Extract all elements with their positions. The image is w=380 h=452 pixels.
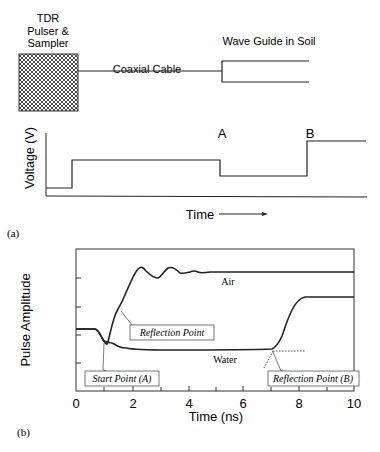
plot-frame: [76, 249, 354, 391]
waveguide-label: Wave Guide in Soil: [222, 35, 315, 47]
tangent-line-slope: [264, 351, 273, 368]
panel-b-chart: 0 2 4 6 8 10 Time (ns) Pulse Amplitude A…: [18, 249, 361, 424]
air-curve: [76, 267, 354, 344]
water-curve: [76, 297, 354, 350]
device-label-2: Pulser &: [27, 25, 69, 37]
pulser-sampler-box: [19, 54, 78, 111]
svg-text:10: 10: [347, 396, 361, 411]
device-label-1: TDR: [37, 12, 60, 24]
marker-b: B: [306, 126, 315, 141]
reflection-point-text: Reflection Point: [139, 327, 205, 338]
air-label: Air: [221, 276, 235, 287]
panel-a-label: (a): [7, 227, 20, 240]
svg-text:8: 8: [295, 396, 302, 411]
x-ticks: [104, 386, 327, 391]
svg-text:0: 0: [72, 396, 79, 411]
start-point-text: Start Point (A): [93, 373, 153, 385]
voltage-axis-label: Voltage (V): [23, 127, 37, 189]
reflection-b-leader: [273, 352, 294, 372]
device-label-3: Sampler: [28, 37, 69, 49]
reflection-point-b-text: Reflection Point (B): [272, 373, 354, 385]
water-label: Water: [213, 354, 237, 365]
y-ticks: [76, 278, 81, 363]
x-axis-label: Time (ns): [189, 409, 243, 424]
svg-text:2: 2: [129, 396, 136, 411]
start-point-leader: [103, 343, 109, 372]
panel-a-plot: A B Voltage (V) Time: [23, 126, 367, 222]
voltage-trace: [46, 141, 366, 188]
tdr-device: TDR Pulser & Sampler: [19, 12, 78, 111]
coaxial-cable-label: Coaxial Cable: [113, 63, 181, 75]
marker-a: A: [218, 126, 227, 141]
arrowhead-icon: [262, 212, 268, 216]
waveguide-bottom-rod: [222, 71, 309, 82]
x-axis: [46, 196, 367, 197]
figure: TDR Pulser & Sampler Coaxial Cable Wave …: [0, 0, 380, 452]
waveguide-top-rod: [222, 61, 309, 71]
y-axis-label: Pulse Amplitude: [18, 273, 33, 366]
panel-b-label: (b): [17, 426, 30, 439]
time-axis-label: Time: [186, 207, 214, 222]
